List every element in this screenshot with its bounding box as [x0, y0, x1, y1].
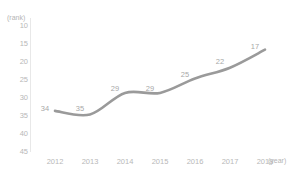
x-axis-tick-label: 2014 — [110, 157, 140, 166]
x-axis-tick-label: 2016 — [180, 157, 210, 166]
data-point-label: 22 — [210, 57, 230, 66]
data-point-label: 35 — [70, 104, 90, 113]
data-point-label: 29 — [140, 84, 160, 93]
data-point-label: 29 — [105, 84, 125, 93]
data-point-label: 25 — [175, 70, 195, 79]
x-axis-tick-label: 2018 — [250, 157, 280, 166]
x-axis-tick-label: 2012 — [40, 157, 70, 166]
x-axis-tick-label: 2017 — [215, 157, 245, 166]
data-point-label: 34 — [35, 104, 55, 113]
x-axis-tick-label: 2015 — [145, 157, 175, 166]
rank-trend-line-chart: (rank) (year) 10 15 20 25 30 35 40 45 20… — [0, 0, 298, 180]
data-point-label: 17 — [245, 42, 265, 51]
x-axis-tick-label: 2013 — [75, 157, 105, 166]
